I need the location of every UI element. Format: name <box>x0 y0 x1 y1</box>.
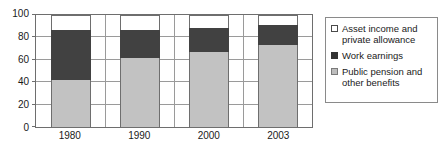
bar-segment[interactable] <box>120 30 160 58</box>
legend-item[interactable]: Work earnings <box>331 50 433 61</box>
bar-segment[interactable] <box>120 58 160 127</box>
bar-slot <box>105 15 174 127</box>
chart-legend: Asset income andprivate allowanceWork ea… <box>325 17 438 103</box>
legend-item-label-line2: other benefits <box>342 77 400 88</box>
asset-swatch <box>331 25 338 32</box>
bar-segment[interactable] <box>51 15 91 30</box>
chart-figure: 020406080100 1980199020002003 Asset inco… <box>0 0 443 153</box>
legend-item[interactable]: Asset income andprivate allowance <box>331 23 433 45</box>
plot-area <box>35 14 313 128</box>
bar-segment[interactable] <box>258 15 298 25</box>
bar-slot <box>243 15 312 127</box>
y-tick-label: 20 <box>18 100 29 110</box>
bar-series-group <box>36 15 312 127</box>
stacked-bar[interactable] <box>189 15 229 127</box>
y-tick-label: 100 <box>12 9 29 19</box>
bar-slot <box>36 15 105 127</box>
legend-item-label: Work earnings <box>342 50 403 61</box>
bar-segment[interactable] <box>258 45 298 127</box>
legend-item-label: Asset income andprivate allowance <box>342 23 418 45</box>
x-tick-label: 1980 <box>35 130 105 150</box>
y-tick-label: 0 <box>23 123 29 133</box>
stacked-bar[interactable] <box>51 15 91 127</box>
pension-swatch <box>331 68 338 75</box>
bar-segment[interactable] <box>258 25 298 45</box>
legend-item-label-line2: private allowance <box>342 34 415 45</box>
bar-segment[interactable] <box>51 80 91 127</box>
plot-wrapper: 020406080100 1980199020002003 <box>0 0 318 153</box>
bar-segment[interactable] <box>51 30 91 80</box>
legend-item-label: Public pension andother benefits <box>342 66 422 88</box>
y-tick-label: 40 <box>18 77 29 87</box>
stacked-bar[interactable] <box>258 15 298 127</box>
legend-item[interactable]: Public pension andother benefits <box>331 66 433 88</box>
x-tick-label: 2003 <box>244 130 314 150</box>
legend-item-label-line1: Asset income and <box>342 23 418 34</box>
bar-segment[interactable] <box>189 28 229 52</box>
bar-segment[interactable] <box>189 52 229 127</box>
y-tick-label: 60 <box>18 55 29 65</box>
x-axis: 1980199020002003 <box>35 130 313 150</box>
y-axis: 020406080100 <box>0 0 33 153</box>
bar-slot <box>174 15 243 127</box>
legend-item-label-line1: Public pension and <box>342 66 422 77</box>
x-tick-label: 1990 <box>105 130 175 150</box>
stacked-bar[interactable] <box>120 15 160 127</box>
x-tick-label: 2000 <box>174 130 244 150</box>
y-tick-label: 80 <box>18 32 29 42</box>
bar-segment[interactable] <box>189 15 229 28</box>
bar-segment[interactable] <box>120 15 160 30</box>
work-swatch <box>331 52 338 59</box>
